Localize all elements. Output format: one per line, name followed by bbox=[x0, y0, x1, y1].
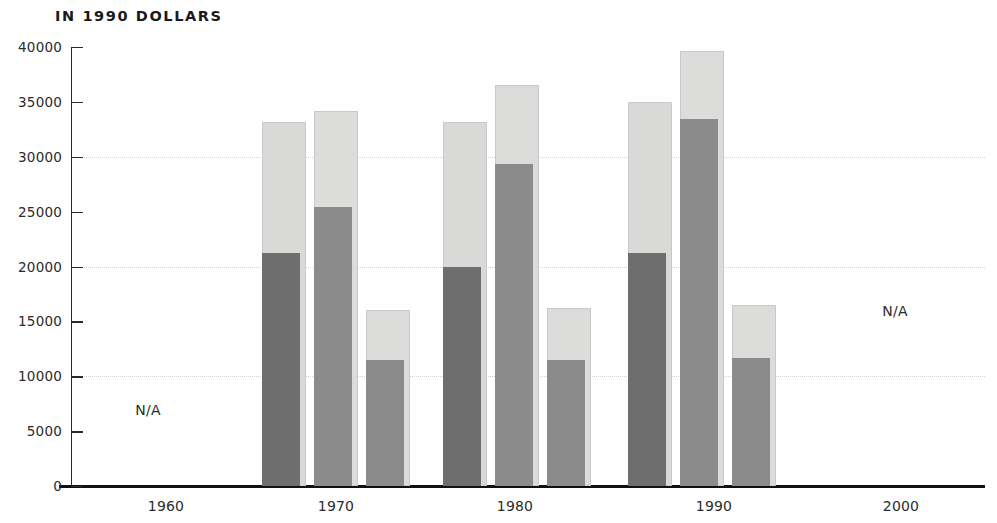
chart-title: IN 1990 DOLLARS bbox=[55, 8, 223, 24]
y-axis-tick-label: 0 bbox=[0, 478, 62, 494]
y-axis-tick-label: 20000 bbox=[0, 259, 62, 275]
x-axis-label-1960: 1960 bbox=[148, 498, 184, 514]
y-axis-tick bbox=[72, 486, 83, 487]
na-annotation: N/A bbox=[135, 402, 161, 418]
bar-1990-1 bbox=[628, 47, 672, 486]
y-axis-tick-label: 30000 bbox=[0, 149, 62, 165]
x-axis-label-1990: 1990 bbox=[696, 498, 732, 514]
bar-group-1990 bbox=[72, 47, 985, 486]
y-axis-tick-label: 40000 bbox=[0, 39, 62, 55]
bar-1990-3 bbox=[732, 47, 776, 486]
x-axis-label-2000: 2000 bbox=[883, 498, 919, 514]
bar-1990-2 bbox=[680, 47, 724, 486]
y-axis-tick-label: 25000 bbox=[0, 204, 62, 220]
chart-root: IN 1990 DOLLARS 400003500030000250002000… bbox=[0, 0, 997, 523]
y-axis-tick-label: 15000 bbox=[0, 313, 62, 329]
bar-segment-dark bbox=[628, 253, 666, 486]
x-axis-label-1980: 1980 bbox=[497, 498, 533, 514]
y-axis-tick-label: 5000 bbox=[0, 423, 62, 439]
bar-segment-dark bbox=[680, 119, 718, 486]
y-axis-tick-label: 35000 bbox=[0, 94, 62, 110]
bar-segment-dark bbox=[732, 358, 770, 486]
x-axis-label-1970: 1970 bbox=[318, 498, 354, 514]
y-axis-tick-label: 10000 bbox=[0, 368, 62, 384]
na-annotation: N/A bbox=[882, 303, 908, 319]
bars-layer bbox=[72, 47, 985, 486]
